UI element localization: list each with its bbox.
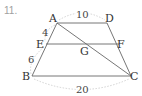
measure-bc: 20 [76,84,89,95]
measure-ae: 4 [42,27,48,38]
measure-ad-text: 10 [76,9,89,20]
label-c: C [130,70,138,83]
label-e: E [36,38,44,51]
label-d: D [105,12,114,25]
measure-eb: 6 [28,54,34,65]
label-b: B [22,70,30,83]
label-g: G [80,45,89,58]
label-a: A [48,12,58,25]
trapezoid-diagram: A D E F G B C 10 10 4 6 20 20 [0,0,142,96]
label-f: F [117,38,125,51]
